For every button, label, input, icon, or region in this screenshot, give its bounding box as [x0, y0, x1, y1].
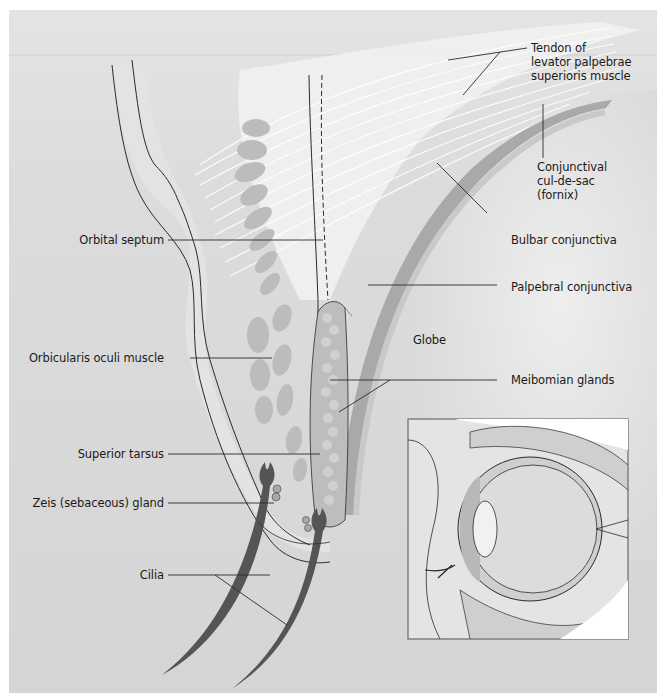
label-orbicularis-oculi: Orbicularis oculi muscle [29, 351, 164, 365]
label-globe: Globe [413, 333, 446, 347]
inset-eye-in-orbit [408, 419, 628, 639]
label-zeis-gland: Zeis (sebaceous) gland [33, 496, 164, 510]
label-tendon-levator: Tendon of levator palpebrae superioris m… [531, 41, 657, 83]
label-line: Conjunctival [537, 160, 657, 174]
superior-tarsus [310, 302, 352, 527]
label-meibomian-glands: Meibomian glands [511, 373, 614, 387]
label-line: (fornix) [537, 188, 657, 202]
label-line: cul-de-sac [537, 174, 657, 188]
label-line: levator palpebrae [531, 55, 657, 69]
label-orbital-septum: Orbital septum [79, 233, 164, 247]
eyelid-diagram [0, 0, 657, 695]
label-bulbar-conjunctiva: Bulbar conjunctiva [511, 233, 617, 247]
label-conjunctival-fornix: Conjunctival cul-de-sac (fornix) [537, 160, 657, 202]
label-line: Tendon of [531, 41, 657, 55]
label-line: superioris muscle [531, 69, 657, 83]
label-superior-tarsus: Superior tarsus [78, 447, 164, 461]
label-cilia: Cilia [140, 568, 164, 582]
label-palpebral-conjunctiva: Palpebral conjunctiva [511, 280, 632, 294]
